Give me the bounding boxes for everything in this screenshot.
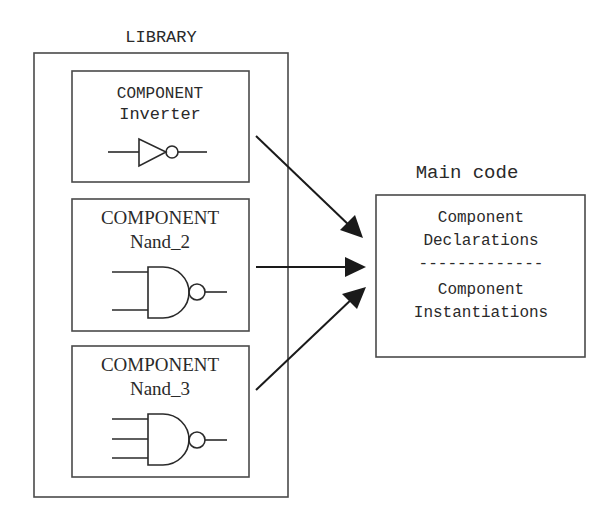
component-nand2: COMPONENT Nand_2: [72, 199, 249, 331]
library-title: LIBRARY: [125, 28, 196, 47]
main-code-line-component-2: Component: [438, 281, 524, 299]
arrowhead-icon: [345, 257, 366, 277]
main-code-title: Main code: [416, 162, 519, 184]
component-name: Nand_3: [130, 378, 190, 399]
nand3-gate-icon: [112, 414, 227, 465]
main-code-line-component-1: Component: [438, 209, 524, 227]
component-keyword: COMPONENT: [101, 207, 220, 228]
component-keyword: COMPONENT: [117, 85, 203, 103]
component-name: Inverter: [119, 105, 201, 124]
component-nand3: COMPONENT Nand_3: [72, 346, 249, 477]
arrow-nand2-to-main: [256, 257, 366, 277]
inverter-icon: [108, 139, 207, 166]
component-name: Nand_2: [130, 231, 190, 252]
arrow-nand3-to-main: [256, 287, 366, 390]
arrow-inverter-to-main: [256, 136, 363, 238]
main-code-line-instantiations: Instantiations: [414, 304, 548, 322]
component-keyword: COMPONENT: [101, 354, 220, 375]
vhdl-component-library-diagram: LIBRARY COMPONENT Inverter COMPONENT Nan…: [0, 0, 615, 528]
nand2-gate-icon: [112, 267, 227, 318]
main-code-line-declarations: Declarations: [423, 232, 538, 250]
main-code-separator: -------------: [419, 255, 544, 273]
component-inverter: COMPONENT Inverter: [72, 71, 249, 182]
